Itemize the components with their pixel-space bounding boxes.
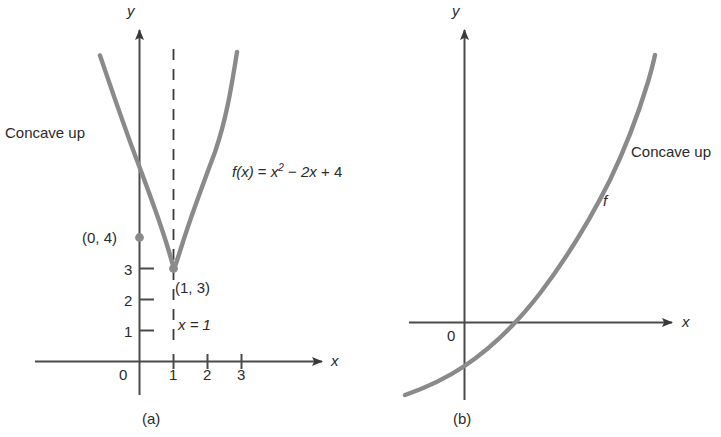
panel-a-equation-label: f(x) = x2 − 2x + 4 [232, 163, 342, 179]
figure-container: y x Concave up 0 1 2 3 1 2 3 (0, 4) (1, … [0, 0, 721, 437]
panel-b-curve [405, 55, 655, 395]
panel-a-y-axis-label: y [127, 3, 135, 18]
equation-arg: (x) [236, 163, 254, 180]
panel-b-origin-label: 0 [447, 328, 455, 343]
equation-term2: 2x [301, 163, 317, 180]
panel-b-x-axis-label: x [682, 314, 690, 329]
panel-a-y-tick-label-1: 1 [124, 324, 132, 339]
equation-minus-operator: − [284, 163, 301, 180]
panel-b-concave-up-label: Concave up [631, 144, 711, 159]
panel-b-curve-label: f [603, 193, 607, 208]
panel-a-y-tick-label-2: 2 [124, 293, 132, 308]
panel-a-caption: (a) [142, 411, 160, 426]
panel-a-symmetry-label: x = 1 [178, 317, 211, 332]
panel-a-y-intercept-label: (0, 4) [82, 230, 117, 245]
panel-a-y-tickmarks [139, 269, 154, 331]
equation-equals: = [254, 163, 271, 180]
panel-a-x-tick-label-3: 3 [237, 367, 245, 382]
panel-a-origin-label: 0 [119, 367, 127, 382]
panel-a-x-tick-label-1: 1 [169, 367, 177, 382]
panel-a-concave-up-label: Concave up [5, 125, 85, 140]
equation-plus-operator: + [317, 163, 334, 180]
panel-a-x-tick-label-2: 2 [203, 367, 211, 382]
panel-a-x-axis-label: x [331, 353, 339, 368]
panel-a-graphics [0, 0, 721, 437]
equation-term3: 4 [334, 163, 342, 180]
panel-a-vertex-label: (1, 3) [175, 280, 210, 295]
panel-a-y-tick-label-3: 3 [124, 262, 132, 277]
panel-a-point-y-intercept [135, 233, 144, 242]
panel-a-parabola-curve [100, 52, 237, 269]
panel-a-point-vertex [169, 264, 178, 273]
panel-b-caption: (b) [453, 411, 471, 426]
panel-b-y-axis-label: y [452, 3, 460, 18]
